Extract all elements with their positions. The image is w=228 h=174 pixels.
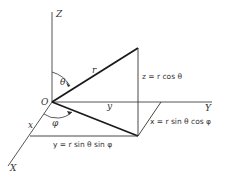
spherical-coordinates-diagram: Z O Y X θ φ r y x z = r cos θ x = r sin …: [0, 0, 228, 174]
r-label: r: [92, 65, 97, 75]
theta-label: θ: [60, 77, 66, 87]
x-axis-label: X: [9, 163, 17, 173]
radius-vector-r: [52, 48, 138, 102]
phi-label: φ: [52, 118, 59, 128]
xy-projection-line: [52, 102, 138, 136]
x-axis: [8, 102, 52, 166]
x-segment-label: x: [28, 120, 33, 130]
z-axis-label: Z: [55, 9, 63, 19]
z-equation: z = r cos θ: [142, 72, 182, 81]
y-segment-label: y: [106, 101, 113, 111]
y-equation: y = r sin θ sin φ: [53, 140, 112, 149]
origin-label: O: [41, 97, 49, 107]
y-axis-label: Y: [205, 103, 212, 113]
x-equation: x = r sin θ cos φ: [150, 117, 211, 126]
